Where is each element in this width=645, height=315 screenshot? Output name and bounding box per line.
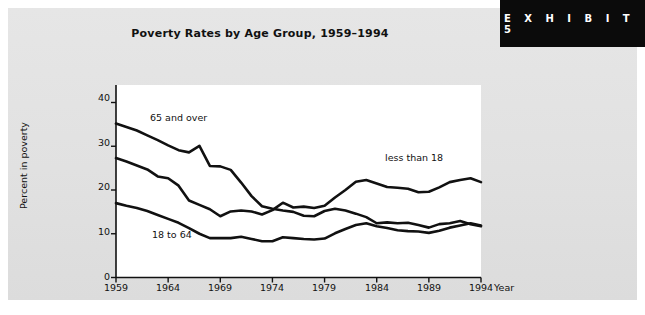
x-tick-label: 1989 — [407, 282, 451, 293]
x-tick-label: 1969 — [198, 282, 242, 293]
series-annotation-65-and-over: 65 and over — [150, 112, 207, 123]
y-axis-title: Percent in poverty — [18, 106, 29, 226]
y-tick-label: 30 — [84, 137, 110, 148]
y-tick-label: 0 — [84, 271, 110, 282]
x-axis-title: Year — [494, 282, 514, 293]
series-line-less-than-18 — [116, 158, 481, 216]
x-tick-label: 1964 — [146, 282, 190, 293]
series-lines-group — [116, 124, 481, 242]
chart-svg — [0, 0, 645, 315]
y-tick-label: 10 — [84, 226, 110, 237]
series-line-65-and-over — [116, 124, 481, 228]
x-tick-label: 1974 — [250, 282, 294, 293]
series-annotation-less-than-18: less than 18 — [385, 152, 443, 163]
series-annotation-18-to-64: 18 to 64 — [152, 229, 192, 240]
x-tick-label: 1959 — [94, 282, 138, 293]
exhibit-page: E X H I B I T 5 Poverty Rates by Age Gro… — [0, 0, 645, 315]
x-tick-label: 1984 — [355, 282, 399, 293]
y-tick-label: 20 — [84, 181, 110, 192]
y-tick-label: 40 — [84, 92, 110, 103]
x-tick-label: 1979 — [302, 282, 346, 293]
